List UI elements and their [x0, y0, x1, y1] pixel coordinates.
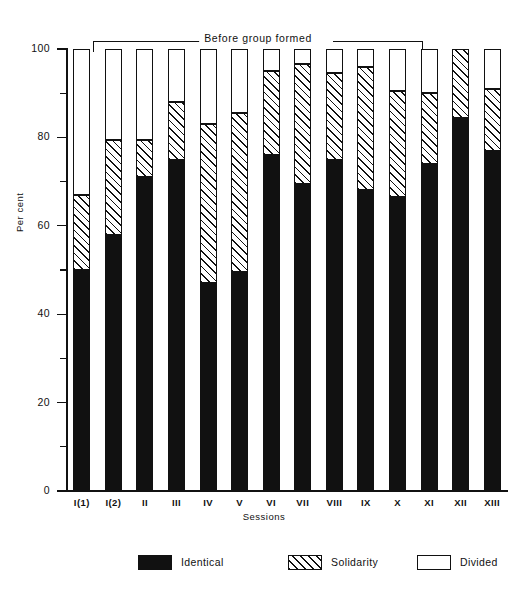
legend-item-identical: Identical: [138, 552, 224, 572]
y-tick-label: 60: [20, 219, 50, 231]
bar-IV: [200, 49, 217, 491]
y-tick-label: 0: [20, 484, 50, 496]
bar-segment-divided: [136, 49, 153, 140]
bar-XII: [452, 49, 469, 491]
x-tick-label-XIII: XIII: [469, 497, 515, 508]
bracket-right-line: [333, 41, 423, 42]
bar-segment-divided: [484, 49, 501, 89]
y-tick-label: 80: [20, 130, 50, 142]
legend-swatch-divided: [417, 555, 451, 570]
bar-segment-divided: [357, 49, 374, 67]
bar-I(1): [73, 49, 90, 491]
bar-II: [136, 49, 153, 491]
bar-segment-solidarity: [200, 124, 217, 283]
bar-segment-divided: [231, 49, 248, 113]
bar-V: [231, 49, 248, 491]
bar-segment-solidarity: [326, 73, 343, 159]
bar-segment-divided: [263, 49, 280, 71]
bar-segment-identical: [168, 160, 185, 492]
bar-segment-identical: [105, 235, 122, 491]
bar-segment-divided: [326, 49, 343, 73]
x-axis-title: Sessions: [0, 511, 528, 522]
bar-segment-solidarity: [357, 67, 374, 191]
y-tick-label: 100: [20, 42, 50, 54]
bar-segment-identical: [484, 151, 501, 491]
bar-segment-divided: [421, 49, 438, 93]
bar-segment-solidarity: [136, 140, 153, 178]
bar-segment-identical: [200, 283, 217, 491]
chart-legend: Identical Solidarity Divided: [0, 552, 528, 578]
bar-segment-solidarity: [263, 71, 280, 155]
bar-segment-divided: [73, 49, 90, 195]
bar-segment-solidarity: [294, 64, 311, 183]
bar-XI: [421, 49, 438, 491]
bar-segment-divided: [168, 49, 185, 102]
bar-segment-solidarity: [484, 89, 501, 151]
bar-segment-identical: [421, 164, 438, 491]
y-tick-label: 40: [20, 307, 50, 319]
bar-III: [168, 49, 185, 491]
bar-segment-solidarity: [168, 102, 185, 159]
bar-segment-identical: [136, 177, 153, 491]
bar-segment-identical: [357, 190, 374, 491]
bar-segment-solidarity: [231, 113, 248, 272]
before-group-formed-bracket: Before group formed: [93, 24, 423, 50]
bar-IX: [357, 49, 374, 491]
bracket-label: Before group formed: [199, 32, 317, 44]
bar-segment-solidarity: [452, 49, 469, 118]
legend-label-solidarity: Solidarity: [331, 556, 378, 568]
bar-VIII: [326, 49, 343, 491]
bar-segment-identical: [389, 197, 406, 491]
plot-area: [66, 49, 508, 491]
legend-swatch-identical: [138, 555, 172, 570]
bar-segment-identical: [263, 155, 280, 491]
bar-segment-solidarity: [73, 195, 90, 270]
bar-XIII: [484, 49, 501, 491]
y-tick-label: 20: [20, 396, 50, 408]
bar-segment-identical: [73, 270, 90, 491]
bar-segment-divided: [200, 49, 217, 124]
bar-segment-identical: [294, 184, 311, 491]
legend-swatch-solidarity: [288, 555, 322, 570]
bracket-left-line: [93, 41, 208, 42]
bar-segment-identical: [452, 118, 469, 491]
legend-item-solidarity: Solidarity: [288, 552, 378, 572]
bar-segment-identical: [231, 272, 248, 491]
bar-X: [389, 49, 406, 491]
bar-segment-divided: [294, 49, 311, 64]
bar-segment-divided: [389, 49, 406, 91]
stacked-bar-chart: Before group formed Per cent Sessions 02…: [0, 0, 528, 595]
legend-label-divided: Divided: [460, 556, 498, 568]
bar-segment-identical: [326, 160, 343, 492]
bar-VII: [294, 49, 311, 491]
bar-segment-solidarity: [421, 93, 438, 164]
legend-item-divided: Divided: [417, 552, 498, 572]
bar-segment-solidarity: [105, 140, 122, 235]
legend-label-identical: Identical: [181, 556, 224, 568]
bar-segment-solidarity: [389, 91, 406, 197]
bar-VI: [263, 49, 280, 491]
bar-segment-divided: [105, 49, 122, 140]
bar-I(2): [105, 49, 122, 491]
